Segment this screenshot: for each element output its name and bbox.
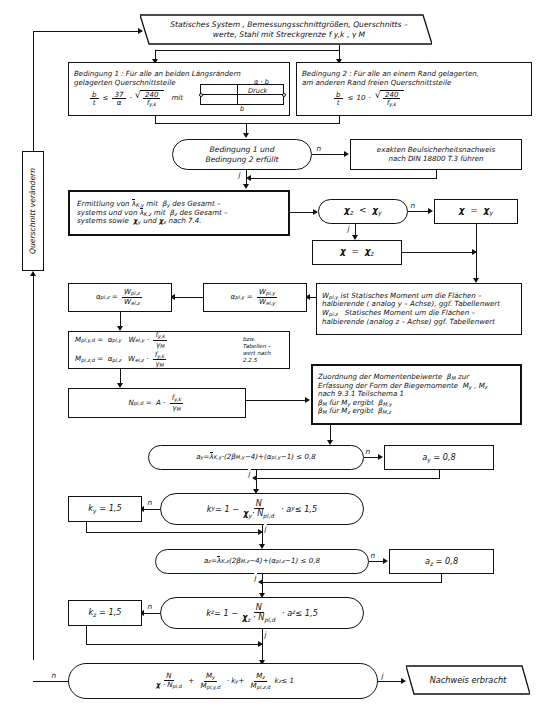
beta-m-assignment-box: Zuordnung der Momentenbeiwerte βM zur Er… [311,364,522,425]
arrow-to-decision [243,133,249,138]
exact-buckling-proof-box: exakten Beulsicherheitsnachweis nach DIN… [350,139,522,170]
end-terminator: Nachweis erbracht [406,665,530,695]
arrow-a-z-no [383,558,388,564]
condition-2-formula: bt ≤ 10 · √ 240fy,k [302,90,526,108]
decision-conditions-line-1: Bedingung 1 und [205,145,278,154]
connector-a-y-set-back [256,478,439,479]
mpl-note-3: wert nach [243,350,283,357]
connector-npl-to-beta [246,400,308,401]
connector-k-z-set-down [86,626,87,645]
decision-chi-text: χz < χy [344,205,382,218]
mpl-note-1: bzw. [243,336,283,343]
edge-label-a-y-no: n [365,447,371,456]
buckling-line-2: nach DIN 18800 T.3 führen [377,155,495,164]
slenderness-line-3: systems sowie χy und χz nach 7.4. [77,217,281,226]
decision-final-interaction: Nχ · Npl,d + MyMpl,y,d · ky + MzMpl,z,d … [68,663,378,699]
connector-split-bar [155,50,339,51]
edge-label-k-z-yes: j [264,630,267,639]
edge-label-a-z-no: n [370,551,376,560]
decision-k-y-text: ky = 1 − Nχy· Npl,d · ay ≤ 1,5 [207,499,317,518]
chi-equals-chi-z-box: χ = χz [312,240,402,265]
end-text: Nachweis erbracht [410,675,526,685]
a-y-set-text: ay = 0,8 [422,452,456,464]
edge-label-chi-yes: j [347,224,350,233]
arrow-return-up [30,271,36,276]
decision-a-y-text: ay = λK,y ·(2βM,y−4)+(αpl,y−1) ≤ 0,8 [196,453,316,462]
npl-text: Npl,d = A · fy,kγM [129,394,186,413]
change-cross-section-box: Querschnitt verändern [22,151,44,271]
start-terminator: Statisches System , Bemessungsschnittgrö… [140,14,432,45]
connector-restart-up [33,31,34,151]
edge-label-final-yes: j [381,671,384,680]
change-cross-section-label: Querschnitt verändern [28,168,37,254]
arrow-cond-yes [243,184,249,189]
condition-2-box: Bedingung 2 : Für alle an einem Rand gel… [296,62,532,116]
k-z-set-box: kz = 1,5 [68,600,142,626]
cross-section-sketch: α · b Druck b [196,80,288,113]
k-z-set-text: kz = 1,5 [89,607,122,619]
connector-a-z-set-back [262,582,441,583]
connector-k-y-set-back [86,532,262,533]
flowchart-canvas: Statisches System , Bemessungsschnittgrö… [0,0,540,714]
decision-k-z-text: kz = 1 − Nχz · Npl,d · az ≤ 1,5 [206,603,318,622]
decision-a-y: ay = λK,y ·(2βM,y−4)+(αpl,y−1) ≤ 0,8 [148,445,364,470]
condition-1-mit: mit [171,94,183,103]
k-y-set-box: ky = 1,5 [68,496,142,522]
decision-a-z-text: az = λK,z(2βM,z −4)+(αpl,z −1) ≤ 0,8 [204,557,320,566]
wpl-definition-box: Wpl,y ist Statisches Moment um die Fläch… [316,283,522,335]
connector-to-chi [290,212,315,213]
beta-line-5: βM für Mz ergibt βM,z [318,407,515,416]
connector-k-z-set-back [86,644,262,645]
decision-k-y: ky = 1 − Nχy· Npl,d · ay ≤ 1,5 [160,493,364,525]
alpha-pl-z-box: αpl,z = Wpl,zWel,z [68,283,172,312]
alpha-pl-y-box: αpl,y = Wpl,yWel,y [203,283,307,312]
arrow-k-z-set-back [258,641,263,647]
connector-restart-top [33,31,141,32]
connector-buckling-back [250,178,436,179]
mpl-note-4: 2.2.5 [243,357,283,364]
arrow-k-y-set-back [258,529,263,535]
wpl-line-4: halbierende (analog z – Achse) ggf. Tabe… [322,318,516,327]
edge-label-final-no: n [51,671,57,680]
chi-equals-chi-y-box: χ = χy [434,199,518,224]
connector-buckling-down [436,170,437,179]
chi-y-text: χ = χy [459,205,493,218]
edge-label-k-z-no: n [147,602,153,611]
edge-label-a-y-yes: j [248,469,251,478]
arrow-npl-to-beta [305,397,310,403]
start-line-2: werte, Stahl mit Streckgrenze f y,k , γ … [150,30,428,39]
a-y-set-box: ay = 0,8 [384,445,494,470]
condition-2-line-2: am anderen Rand freien Querschnittsteile [302,79,526,88]
edge-label-cond-no: n [316,144,322,153]
connector-final-no [33,681,68,682]
npl-design-box: Npl,d = A · fy,kγM [68,388,246,418]
decision-a-z: az = λK,z(2βM,z −4)+(αpl,z −1) ≤ 0,8 [155,549,369,574]
mpl-note-2: Tabellen – [243,343,283,350]
edge-label-k-y-yes: j [264,524,267,533]
connector-chi-merge [402,252,476,253]
alpha-pl-z-text: αpl,z = Wpl,zWel,z [96,288,144,307]
start-line-1: Statisches System , Bemessungsschnittgrö… [150,20,428,29]
alpha-pl-y-text: αpl,y = Wpl,yWel,y [231,288,280,307]
mpl-y-line: Mpl,y,d = αpl,y Wel,y · fy,kγM [75,331,243,350]
connector-return-up [33,276,34,660]
arrow-a-y-no [378,454,383,460]
connector-final-yes [378,681,403,682]
connector-chi-no [408,211,430,212]
a-z-set-text: az = 0,8 [425,556,458,568]
connector-k-y-no [142,509,160,510]
decision-conditions-line-2: Bedingung 2 erfüllt [205,155,278,164]
slenderness-determination-box: Ermittlung von λK,y mit βy des Gesamt – … [68,190,290,236]
k-y-set-text: ky = 1,5 [88,503,121,515]
arrow-a-z-set-back [258,579,263,585]
decision-conditions-fulfilled: Bedingung 1 und Bedingung 2 erfüllt [172,139,312,170]
connector-cond-no [312,154,346,155]
edge-label-k-y-no: n [147,498,153,507]
chi-z-text: χ = χz [340,246,374,259]
arrow-buckling-back [246,175,251,181]
decision-final-text: Nχ · Npl,d + MyMpl,y,d · ky + MzMpl,z,d … [152,672,294,691]
decision-k-z: kz = 1 − Nχz · Npl,d · az ≤ 1,5 [160,597,364,629]
connector-a-y-set-down [439,470,440,479]
arrow-chi-merge [472,249,477,255]
a-z-set-box: az = 0,8 [389,549,494,574]
